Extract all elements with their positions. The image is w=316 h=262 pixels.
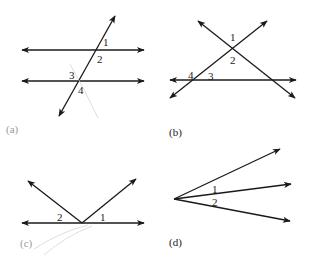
geometry-figure: 1 2 3 4 (a) 1 2 4 3 (b) 2 1 (c) 1 2 (d) <box>0 0 316 262</box>
line-ascending <box>170 21 267 98</box>
angle-label-1: 1 <box>100 211 106 223</box>
caption-a: (a) <box>6 123 19 136</box>
angle-label-2: 2 <box>230 54 236 66</box>
angle-label-2: 2 <box>57 211 63 223</box>
angle-label-3: 3 <box>69 69 75 81</box>
caption-d: (d) <box>169 236 182 249</box>
angle-label-1: 1 <box>230 31 236 43</box>
caption-b: (b) <box>169 126 182 139</box>
angle-label-1: 1 <box>103 36 109 48</box>
caption-c: (c) <box>20 237 33 250</box>
pencil-mark <box>34 225 92 255</box>
line-descending <box>198 21 295 98</box>
angle-label-2: 2 <box>97 53 103 65</box>
transversal-line <box>59 16 115 116</box>
angle-label-2: 2 <box>212 196 218 208</box>
angle-label-3: 3 <box>208 70 214 82</box>
panel-a: 1 2 3 4 (a) <box>6 16 144 136</box>
angle-label-4: 4 <box>78 84 84 96</box>
ray-left <box>28 181 82 223</box>
ray-lower <box>174 199 290 221</box>
angle-label-1: 1 <box>212 183 218 195</box>
panel-c: 2 1 (c) <box>20 179 144 255</box>
panel-b: 1 2 4 3 (b) <box>169 21 296 139</box>
ray-middle <box>174 184 291 199</box>
ray-right <box>82 179 136 223</box>
panel-d: 1 2 (d) <box>169 149 291 249</box>
ray-upper <box>174 149 280 199</box>
angle-label-4: 4 <box>188 69 194 81</box>
